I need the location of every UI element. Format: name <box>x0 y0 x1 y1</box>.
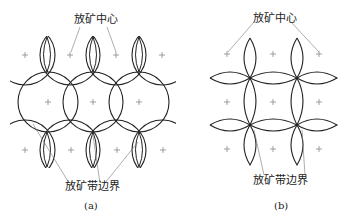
figure-b-label-top: 放矿中心 <box>253 13 297 25</box>
figure-b-lenses <box>210 38 337 165</box>
figure-a-centers <box>22 52 166 153</box>
diagram-canvas <box>0 0 348 223</box>
figure-b-centers <box>224 51 322 152</box>
figure-a-leaders <box>33 27 138 183</box>
figure-a-label-top: 放矿中心 <box>74 14 118 26</box>
figure-b-caption: (b) <box>274 200 288 212</box>
figure-a-caption: (a) <box>84 200 98 212</box>
figure-b-label-bottom: 放矿带边界 <box>253 175 308 187</box>
figure-a-label-bottom: 放矿带边界 <box>65 181 120 193</box>
figure-b-leaders <box>228 22 319 175</box>
